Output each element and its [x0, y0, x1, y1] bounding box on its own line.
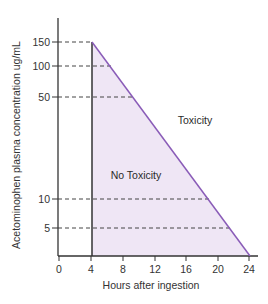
no-toxicity-label: No Toxicity — [111, 169, 162, 181]
x-tick-label-20: 20 — [212, 263, 224, 275]
y-tick-label-5: 5 — [44, 222, 50, 234]
x-tick-label-16: 16 — [180, 263, 192, 275]
toxicity-label: Toxicity — [178, 114, 213, 126]
x-tick-label-0: 0 — [56, 263, 62, 275]
x-ticks — [59, 256, 249, 261]
x-tick-label-24: 24 — [243, 263, 255, 275]
x-axis-title: Hours after ingestion — [103, 279, 200, 291]
x-tick-label-12: 12 — [149, 263, 161, 275]
y-tick-label-10: 10 — [38, 193, 50, 205]
y-tick-label-150: 150 — [32, 36, 50, 48]
chart: 150 100 50 10 5 0 4 8 12 16 20 24 Hours … — [0, 0, 268, 304]
nomogram-plot: 150 100 50 10 5 0 4 8 12 16 20 24 Hours … — [0, 0, 268, 304]
x-tick-label-8: 8 — [120, 263, 126, 275]
x-tick-label-4: 4 — [88, 263, 94, 275]
y-axis-title: Acetominophen plasma concentration ug/mL — [10, 41, 22, 249]
y-tick-label-50: 50 — [38, 91, 50, 103]
y-ticks — [52, 42, 58, 228]
y-tick-label-100: 100 — [32, 60, 50, 72]
